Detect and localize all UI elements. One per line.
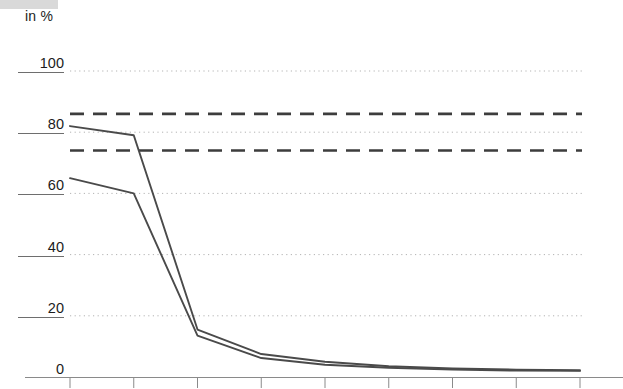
reference-lines-group [70, 114, 582, 151]
series-upper-solid [70, 126, 580, 370]
chart-container: in % 100 80 60 40 20 0 [0, 0, 623, 389]
series-lower-solid [70, 178, 580, 371]
data-lines-group [70, 126, 580, 371]
gridlines-group [70, 71, 582, 316]
x-axis-group [25, 377, 623, 388]
plot-area [0, 0, 623, 389]
